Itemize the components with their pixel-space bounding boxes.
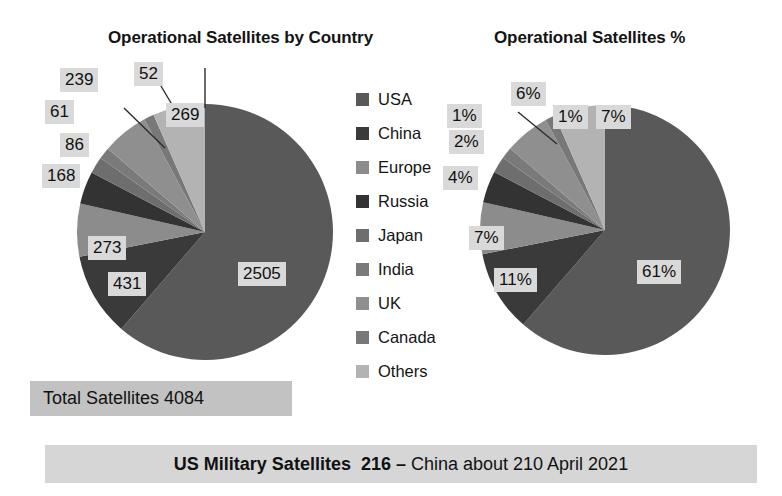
legend-item-china[interactable]: China [356,116,466,150]
pie-chart-counts[interactable] [60,80,360,380]
legend-swatch-icon [356,365,369,378]
total-satellites-text: Total Satellites 4084 [43,388,204,409]
data-label-uk-count: 239 [60,68,98,92]
legend-label: Russia [378,192,428,211]
legend-item-europe[interactable]: Europe [356,150,466,184]
data-label-canada-percent: 1% [553,105,588,129]
data-label-others-count: 269 [166,103,204,127]
legend-label: Europe [378,158,431,177]
legend-item-others[interactable]: Others [356,354,466,388]
legend-swatch-icon [356,195,369,208]
legend-swatch-icon [356,297,369,310]
chart-legend: USAChinaEuropeRussiaJapanIndiaUKCanadaOt… [356,82,466,388]
legend-label: India [378,260,414,279]
legend-label: Others [378,362,428,381]
data-label-japan-count: 86 [60,133,89,157]
legend-swatch-icon [356,127,369,140]
legend-item-usa[interactable]: USA [356,82,466,116]
data-label-uk-percent: 6% [511,82,546,106]
chart-title-left: Operational Satellites by Country [108,28,373,48]
legend-item-canada[interactable]: Canada [356,320,466,354]
legend-swatch-icon [356,229,369,242]
legend-label: UK [378,294,401,313]
data-label-usa-count: 2505 [238,262,286,286]
data-label-europe-percent: 7% [469,226,504,250]
military-satellites-bold: US Military Satellites 216 – [174,454,411,475]
legend-swatch-icon [356,161,369,174]
data-label-others-percent: 7% [596,105,631,129]
data-label-usa-percent: 61% [637,260,681,284]
legend-label: USA [378,90,412,109]
total-satellites-banner: Total Satellites 4084 [30,381,292,416]
legend-swatch-icon [356,331,369,344]
legend-item-india[interactable]: India [356,252,466,286]
slide-canvas: Operational Satellites by Country Operat… [0,0,782,496]
data-label-canada-count: 52 [134,62,163,86]
pie-slices-left [77,104,333,360]
military-satellites-banner: US Military Satellites 216 – China about… [45,445,757,483]
legend-label: China [378,124,421,143]
data-label-china-percent: 11% [494,268,537,292]
legend-item-japan[interactable]: Japan [356,218,466,252]
legend-swatch-icon [356,263,369,276]
legend-label: Japan [378,226,423,245]
data-label-europe-count: 273 [88,236,126,260]
military-satellites-regular: China about 210 April 2021 [411,454,628,475]
pie-slices-right [480,105,730,355]
legend-item-uk[interactable]: UK [356,286,466,320]
legend-item-russia[interactable]: Russia [356,184,466,218]
data-label-india-count: 61 [45,100,74,124]
data-label-china-count: 431 [108,272,146,296]
data-label-russia-count: 168 [42,164,80,188]
chart-title-right: Operational Satellites % [494,28,685,48]
legend-label: Canada [378,328,436,347]
legend-swatch-icon [356,93,369,106]
